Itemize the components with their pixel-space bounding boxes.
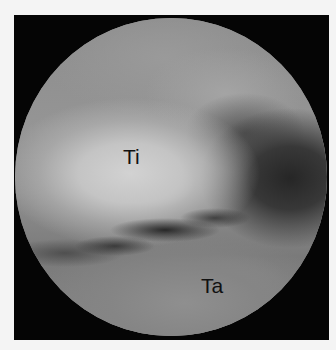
image-frame: Ti Ta (14, 15, 329, 340)
label-ti: Ti (123, 146, 140, 167)
arthroscope-field-of-view: Ti Ta (15, 18, 327, 336)
label-ta: Ta (201, 275, 223, 296)
frayed-cartilage-edge (15, 18, 327, 336)
